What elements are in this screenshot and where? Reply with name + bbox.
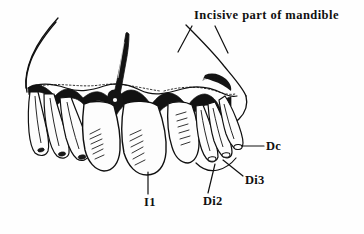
label-dc: Dc: [266, 140, 281, 153]
label-i1: I1: [144, 196, 156, 209]
tooth-dc-tip: [234, 144, 243, 149]
label-di3: Di3: [245, 174, 265, 187]
mandible-illustration: [0, 0, 364, 234]
mental-spine-foramen: [113, 98, 117, 102]
tooth-incisor-central-large-body: [122, 101, 166, 175]
label-incisive-part-of-mandible: Incisive part of mandible: [194, 9, 339, 22]
tooth-di3-tip: [222, 152, 230, 157]
tooth-incisor-central-large: [122, 101, 166, 175]
anatomical-figure: Incisive part of mandible Dc Di3 Di2 I1: [0, 0, 364, 234]
tooth-di2-tip: [208, 156, 216, 161]
label-di2: Di2: [203, 195, 223, 208]
